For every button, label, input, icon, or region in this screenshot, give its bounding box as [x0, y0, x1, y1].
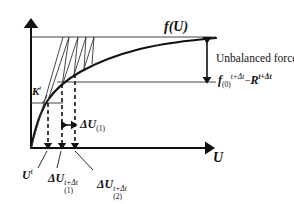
curve-label-f: f(U)	[164, 19, 188, 34]
formula-R-sup: t+Δt	[258, 72, 271, 81]
u-t-label: Ut	[22, 168, 33, 181]
delta-u1-sub: (1)	[64, 187, 73, 194]
x-axis-label: U	[213, 151, 223, 165]
u-t-superscript: t	[31, 167, 33, 176]
leader-ut	[38, 151, 47, 168]
formula-f-sub: (0)	[222, 80, 231, 89]
unbalanced-force-title: Unbalanced force	[216, 53, 294, 65]
u-t-symbol: U	[22, 168, 31, 182]
delta-u2-label: ΔUt+Δt(2)	[97, 178, 133, 190]
delta-u1-inner-sub: (1)	[96, 124, 105, 133]
formula-f-sup: t+Δt	[231, 72, 245, 81]
dashed-projection-lines	[48, 74, 75, 146]
stiffness-label: Kt	[32, 85, 41, 97]
leader-du1	[57, 151, 61, 168]
delta-u1-inner-symbol: ΔU	[80, 117, 96, 131]
curve-label: f(U)	[164, 20, 188, 34]
response-curve	[31, 38, 216, 148]
tangent-iter-1	[48, 37, 69, 100]
unbalanced-force-formula: f(0)t+Δt−Rt+Δt	[218, 73, 272, 89]
delta-u2-symbol: ΔU	[97, 177, 113, 191]
delta-u2-sub: (2)	[113, 193, 122, 200]
stiffness-superscript: t	[39, 84, 41, 91]
leader-lines	[38, 151, 93, 170]
delta-u1-label: ΔUt+Δt(1)	[48, 172, 84, 184]
delta-u1-inner-label: ΔU(1)	[80, 118, 105, 133]
delta-u1-symbol: ΔU	[48, 171, 64, 185]
leader-du2	[75, 151, 93, 170]
force-displacement-diagram	[0, 0, 294, 204]
